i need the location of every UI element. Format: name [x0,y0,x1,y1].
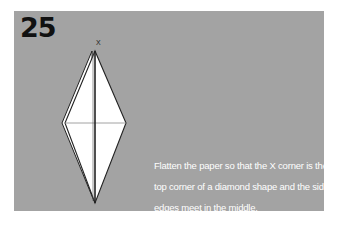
caption-line: Flatten the paper so that the X corner i… [154,155,319,176]
caption-line: top corner of a diamond shape and the si… [154,176,319,197]
x-corner-marker: X [96,39,101,46]
instruction-caption: Flatten the paper so that the X corner i… [154,155,319,218]
caption-line: edges meet in the middle. [154,197,319,218]
instruction-panel: 25 X Flatten the paper so that the X cor… [14,11,324,211]
